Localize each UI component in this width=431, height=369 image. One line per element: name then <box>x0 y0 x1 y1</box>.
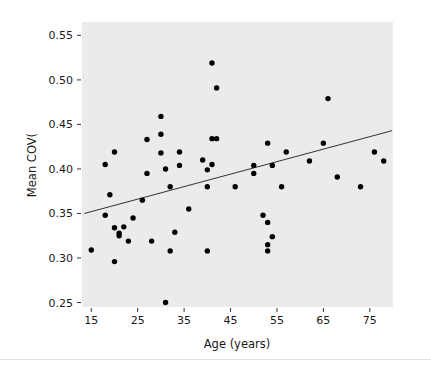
scatter-point <box>158 132 163 137</box>
scatter-point <box>265 220 270 225</box>
scatter-point <box>251 171 256 176</box>
scatter-point <box>116 233 121 238</box>
scatter-point <box>107 192 112 197</box>
scatter-point <box>126 238 131 243</box>
scatter-point <box>321 140 326 145</box>
scatter-point <box>103 213 108 218</box>
scatter-point <box>260 213 265 218</box>
y-tick-label: 0.35 <box>49 207 74 220</box>
scatter-point <box>144 171 149 176</box>
scatter-point <box>112 225 117 230</box>
y-tick-label: 0.45 <box>49 118 74 131</box>
scatter-point <box>209 136 214 141</box>
x-tick-label: 35 <box>177 314 191 327</box>
scatter-point <box>358 184 363 189</box>
scatter-point <box>335 174 340 179</box>
scatter-point <box>325 96 330 101</box>
scatter-point <box>103 162 108 167</box>
scatter-point <box>163 166 168 171</box>
scatter-point <box>130 215 135 220</box>
x-axis-title: Age (years) <box>204 337 271 351</box>
y-tick-label: 0.30 <box>49 252 74 265</box>
x-tick-label: 55 <box>270 314 284 327</box>
scatter-point <box>251 163 256 168</box>
x-tick-label: 25 <box>131 314 145 327</box>
scatter-point <box>167 184 172 189</box>
y-tick-label: 0.40 <box>49 163 74 176</box>
scatter-point <box>112 259 117 264</box>
plot-panel <box>82 22 393 307</box>
scatter-point <box>177 149 182 154</box>
scatter-point <box>163 300 168 305</box>
x-tick-label: 15 <box>84 314 98 327</box>
scatter-point <box>144 137 149 142</box>
scatter-point <box>172 229 177 234</box>
scatter-plot-figure: 0.250.300.350.400.450.500.55 15253545556… <box>0 0 431 369</box>
x-tick-label: 75 <box>363 314 377 327</box>
scatter-point <box>270 163 275 168</box>
scatter-point <box>214 136 219 141</box>
x-tick-label: 65 <box>316 314 330 327</box>
y-tick-label: 0.55 <box>49 29 74 42</box>
scatter-point <box>177 163 182 168</box>
scatter-point <box>158 114 163 119</box>
scatter-point <box>167 248 172 253</box>
scatter-point <box>89 247 94 252</box>
scatter-point <box>200 157 205 162</box>
scatter-point <box>121 224 126 229</box>
scatter-point <box>140 197 145 202</box>
scatter-point <box>372 149 377 154</box>
scatter-point <box>265 140 270 145</box>
scatter-point <box>279 184 284 189</box>
scatter-point <box>112 149 117 154</box>
y-tick-label: 0.50 <box>49 74 74 87</box>
plot-canvas: 0.250.300.350.400.450.500.55 15253545556… <box>0 0 431 369</box>
scatter-point <box>205 167 210 172</box>
scatter-point <box>265 242 270 247</box>
scatter-point <box>209 60 214 65</box>
scatter-point <box>186 206 191 211</box>
scatter-point <box>270 234 275 239</box>
scatter-point <box>205 184 210 189</box>
x-tick-label: 45 <box>224 314 238 327</box>
scatter-point <box>205 248 210 253</box>
y-tick-label: 0.25 <box>49 297 74 310</box>
scatter-point <box>158 150 163 155</box>
scatter-point <box>149 238 154 243</box>
scatter-point <box>232 184 237 189</box>
scatter-point <box>307 158 312 163</box>
scatter-point <box>214 85 219 90</box>
scatter-point <box>265 248 270 253</box>
scatter-point <box>209 162 214 167</box>
scatter-point <box>284 149 289 154</box>
figure-bottom-border <box>0 359 431 369</box>
y-axis-title: Mean COV( <box>25 133 39 197</box>
scatter-point <box>381 158 386 163</box>
